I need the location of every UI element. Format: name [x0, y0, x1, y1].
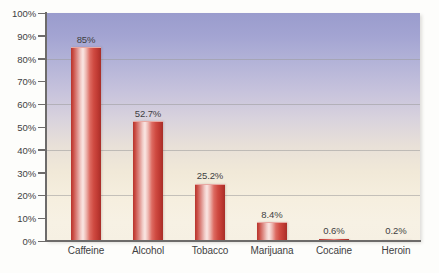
y-tick-label-90: 90% — [0, 31, 36, 42]
gridline-60 — [46, 104, 420, 105]
bar-alcohol — [133, 121, 163, 241]
y-tick-label-40: 40% — [0, 145, 36, 156]
y-tick-label-50: 50% — [0, 122, 36, 133]
bar-tobacco — [195, 184, 225, 242]
bar-value-caffeine: 85% — [58, 34, 114, 45]
y-tick-label-20: 20% — [0, 190, 36, 201]
plot-area: 85% 52.7% 25.2% 8.4% 0.6% 0.2% — [46, 13, 420, 241]
gridline-80 — [46, 59, 420, 60]
bar-value-marijuana: 8.4% — [244, 209, 300, 220]
bar-value-tobacco: 25.2% — [182, 170, 238, 181]
y-tick-label-70: 70% — [0, 76, 36, 87]
y-tick-label-80: 80% — [0, 54, 36, 65]
y-tick-label-100: 100% — [0, 8, 36, 19]
x-label-heroin: Heroin — [356, 245, 436, 256]
y-axis-labels: 100% 90% 80% 70% 60% 50% 40% 30% 20% 10%… — [0, 0, 36, 273]
y-axis-line — [45, 12, 47, 242]
bar-value-cocaine: 0.6% — [306, 225, 362, 236]
bar-chart: 100% 90% 80% 70% 60% 50% 40% 30% 20% 10%… — [0, 0, 439, 273]
x-axis-labels: Caffeine Alcohol Tobacco Marijuana Cocai… — [46, 245, 420, 267]
bar-marijuana — [257, 222, 287, 241]
y-tick-label-60: 60% — [0, 99, 36, 110]
y-tick-label-0: 0% — [0, 236, 36, 247]
x-axis-line — [45, 240, 421, 242]
y-tick-label-30: 30% — [0, 168, 36, 179]
y-tick-label-10: 10% — [0, 213, 36, 224]
gridline-40 — [46, 150, 420, 151]
bar-value-heroin: 0.2% — [368, 225, 424, 236]
bar-caffeine — [71, 47, 101, 241]
gridline-20 — [46, 195, 420, 196]
bar-value-alcohol: 52.7% — [120, 108, 176, 119]
